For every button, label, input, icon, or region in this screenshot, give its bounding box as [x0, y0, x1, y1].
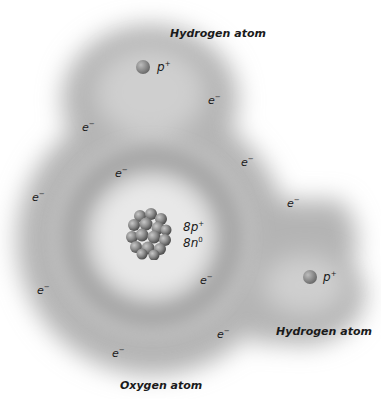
oxygen-atom-label: Oxygen atom	[120, 380, 202, 391]
electron-label: e−	[32, 191, 45, 203]
hydrogen-proton-top-icon	[136, 60, 150, 74]
proton-label-right: p+	[323, 271, 337, 283]
electron-cloud-shading	[0, 0, 381, 399]
water-molecule-diagram: 8p+ 8n0 Hydrogen atom Hydrogen atom Oxyg…	[0, 0, 381, 399]
electron-label: e−	[241, 156, 254, 168]
hydrogen-proton-right-icon	[303, 270, 317, 284]
electron-label: e−	[287, 197, 300, 209]
electron-label: e−	[37, 284, 50, 296]
oxygen-nucleus-icon	[126, 208, 172, 260]
electron-label: e−	[200, 274, 213, 286]
hydrogen-atom-label-top: Hydrogen atom	[170, 28, 266, 39]
proton-label-top: p+	[157, 61, 171, 73]
electron-label: e−	[115, 167, 128, 179]
hydrogen-atom-label-right: Hydrogen atom	[276, 326, 372, 337]
nucleus-composition-label: 8p+ 8n0	[183, 218, 204, 250]
electron-label: e−	[112, 347, 125, 359]
electron-label: e−	[208, 94, 221, 106]
electron-label: e−	[82, 121, 95, 133]
electron-label: e−	[217, 328, 230, 340]
